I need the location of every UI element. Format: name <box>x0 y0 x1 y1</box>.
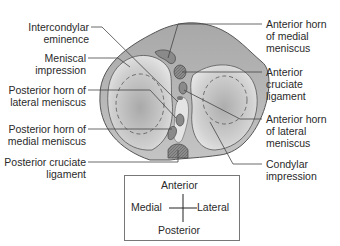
label-meniscal-impression: Meniscal impression <box>35 52 86 76</box>
label-posterior-horn-medial-meniscus: Posterior horn of medial meniscus <box>8 123 86 147</box>
label-anterior-cruciate-ligament: Anterior cruciate ligament <box>266 66 306 102</box>
label-posterior-horn-lateral-meniscus: Posterior horn of lateral meniscus <box>8 84 86 108</box>
orientation-medial: Medial <box>131 201 162 213</box>
orientation-anterior: Anterior <box>161 179 198 191</box>
orientation-lateral: Lateral <box>197 201 229 213</box>
label-anterior-horn-medial-meniscus: Anterior horn of medial meniscus <box>266 18 327 54</box>
posterior-horn-lateral-meniscus-shape <box>176 114 184 126</box>
label-posterior-cruciate-ligament: Posterior cruciate ligament <box>4 156 86 180</box>
orientation-compass: Anterior Medial Lateral Posterior <box>124 175 240 241</box>
orientation-posterior: Posterior <box>158 224 200 236</box>
crosshair-icon <box>169 194 197 222</box>
label-intercondylar-eminence: Intercondylar eminence <box>28 21 89 45</box>
label-condylar-impression: Condylar impression <box>266 158 317 182</box>
anterior-horn-lateral-meniscus-shape <box>179 82 187 94</box>
label-anterior-horn-lateral-meniscus: Anterior horn of lateral meniscus <box>266 113 327 149</box>
